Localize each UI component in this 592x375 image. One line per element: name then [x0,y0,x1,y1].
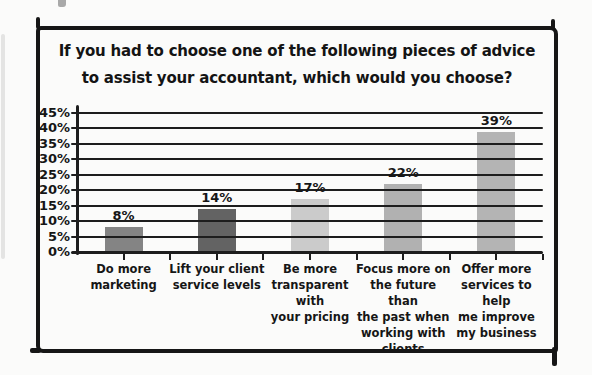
y-tick-label-0: 0% [30,244,70,259]
bar-2 [198,209,236,252]
category-label-line: the future than [354,277,452,309]
x-axis-line [71,251,543,254]
category-label-5: Offer moreservices to helpme improvemy b… [447,261,545,341]
gridline-40 [71,127,543,129]
category-label-line: clients [354,341,452,357]
y-tick-label-40: 40% [30,120,70,135]
gridline-5 [71,236,543,238]
bar-value-label-1: 8% [94,208,154,223]
x-axis-tick [402,254,404,260]
category-label-line: working with [354,325,452,341]
category-label-2: Lift your clientservice levels [168,261,266,293]
gridline-25 [71,174,543,176]
x-axis-tick [356,254,358,260]
y-tick-label-35: 35% [30,136,70,151]
bar-5 [477,132,515,252]
y-tick-label-45: 45% [30,105,70,120]
y-tick-label-25: 25% [30,167,70,182]
y-tick-label-5: 5% [30,229,70,244]
plot-area: 8%Do moremarketing14%Lift your clientser… [0,0,592,375]
category-label-line: my business [447,325,545,341]
category-label-line: Focus more on [354,261,452,277]
x-axis-tick [216,254,218,260]
bar-value-label-4: 22% [373,165,433,180]
category-label-line: me improve [447,309,545,325]
bar-value-label-2: 14% [187,190,247,205]
y-axis-line [76,105,79,255]
y-tick-label-30: 30% [30,151,70,166]
category-label-line: Offer more [447,261,545,277]
category-label-line: services to help [447,277,545,309]
gridline-15 [71,205,543,207]
y-tick-label-15: 15% [30,198,70,213]
category-label-line: marketing [75,277,173,293]
category-label-line: Do more [75,261,173,277]
category-label-line: Lift your client [168,261,266,277]
x-axis-tick [123,254,125,260]
gridline-35 [71,143,543,145]
x-axis-tick [495,254,497,260]
bar-1 [105,227,143,252]
category-label-line: transparent with [261,277,359,309]
x-axis-tick [449,254,451,260]
bar-value-label-3: 17% [280,180,340,195]
x-axis-tick [262,254,264,260]
category-label-line: your pricing [261,309,359,325]
category-label-line: service levels [168,277,266,293]
bar-value-label-5: 39% [466,113,526,128]
x-axis-tick [309,254,311,260]
gridline-30 [71,158,543,160]
bar-3 [291,199,329,252]
x-axis-tick [542,254,544,260]
y-tick-label-10: 10% [30,213,70,228]
category-label-3: Be moretransparent withyour pricing [261,261,359,325]
bar-4 [384,184,422,252]
category-label-1: Do moremarketing [75,261,173,293]
category-label-line: the past when [354,309,452,325]
x-axis-tick [169,254,171,260]
category-label-4: Focus more onthe future thanthe past whe… [354,261,452,357]
category-label-line: Be more [261,261,359,277]
y-tick-label-20: 20% [30,182,70,197]
